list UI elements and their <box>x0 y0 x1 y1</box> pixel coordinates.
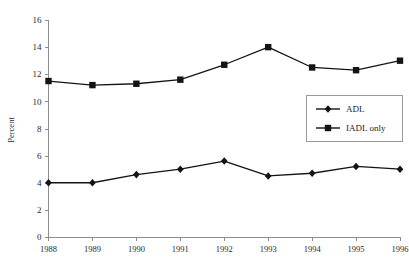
data-point-marker <box>353 163 360 171</box>
data-point-marker <box>89 179 96 187</box>
legend-square-marker-icon <box>325 125 331 131</box>
y-tick-label: 16 <box>33 15 43 25</box>
data-point-marker <box>397 57 403 63</box>
y-axis-title: Percent <box>6 117 16 143</box>
x-tick-label: 1988 <box>40 244 57 254</box>
data-point-marker <box>177 165 184 173</box>
x-axis-ticks: 198819891990199119921993199419951996 <box>40 237 409 254</box>
data-point-marker <box>265 172 272 180</box>
x-tick-label: 1989 <box>84 244 101 254</box>
data-point-marker <box>397 165 404 173</box>
y-tick-label: 2 <box>37 205 42 215</box>
x-tick-label: 1992 <box>216 244 233 254</box>
legend-label: IADL only <box>346 123 386 133</box>
x-tick-label: 1993 <box>260 244 277 254</box>
legend-box <box>307 96 403 142</box>
y-tick-label: 0 <box>37 232 42 242</box>
data-point-marker <box>89 82 95 88</box>
line-chart: Percent 0246810121416 198819891990199119… <box>0 0 409 259</box>
x-tick-label: 1994 <box>304 244 322 254</box>
x-tick-label: 1990 <box>128 244 145 254</box>
data-point-marker <box>309 169 316 177</box>
y-tick-label: 10 <box>33 97 43 107</box>
data-point-marker <box>265 44 271 50</box>
chart-legend: ADLIADL only <box>307 96 403 142</box>
x-tick-label: 1991 <box>172 244 189 254</box>
y-tick-label: 6 <box>37 151 42 161</box>
x-tick-label: 1995 <box>348 244 365 254</box>
y-axis-title-group: Percent <box>6 117 16 143</box>
y-axis-ticks: 0246810121416 <box>33 15 49 242</box>
data-point-marker <box>133 171 140 179</box>
data-point-marker <box>177 76 183 82</box>
data-point-marker <box>45 179 52 187</box>
data-point-marker <box>309 64 315 70</box>
data-point-marker <box>221 62 227 68</box>
data-point-marker <box>353 67 359 73</box>
data-point-marker <box>221 157 228 165</box>
x-tick-label: 1996 <box>392 244 409 254</box>
y-tick-label: 14 <box>33 42 43 52</box>
y-tick-label: 12 <box>33 69 42 79</box>
y-tick-label: 4 <box>37 178 42 188</box>
chart-container: Percent 0246810121416 198819891990199119… <box>0 0 409 259</box>
series-adl <box>45 157 403 186</box>
series-iadl-only <box>45 44 403 88</box>
y-tick-label: 8 <box>37 124 42 134</box>
data-point-marker <box>133 81 139 87</box>
data-point-marker <box>45 78 51 84</box>
legend-label: ADL <box>346 104 365 114</box>
